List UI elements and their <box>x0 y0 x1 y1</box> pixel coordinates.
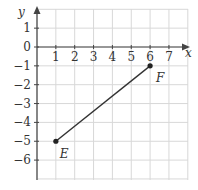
point-e <box>53 139 58 144</box>
x-tick-label: 4 <box>109 50 117 64</box>
x-tick-label: 2 <box>71 50 79 64</box>
coordinate-plane: 123456710−1−2−3−4−5−6 E F x y <box>0 0 198 190</box>
y-tick-label: −6 <box>13 153 31 167</box>
y-tick-label: 1 <box>23 21 31 35</box>
point-f <box>148 63 153 68</box>
point-f-label: F <box>155 71 165 85</box>
x-tick-label: 6 <box>146 50 154 64</box>
point-e-label: E <box>59 147 69 161</box>
y-tick-label: −3 <box>13 97 31 111</box>
x-tick-label: 1 <box>52 50 60 64</box>
y-tick-label: −1 <box>13 59 31 73</box>
y-tick-label: 0 <box>23 40 31 54</box>
y-tick-label: −2 <box>13 78 31 92</box>
y-tick-label: −5 <box>13 134 31 148</box>
y-axis-label: y <box>17 5 25 19</box>
y-tick-label: −4 <box>13 115 31 129</box>
x-tick-label: 7 <box>165 50 173 64</box>
axes <box>34 6 191 180</box>
x-tick-label: 5 <box>127 50 135 64</box>
y-axis-arrow-icon <box>34 6 41 14</box>
x-axis-label: x <box>185 46 192 60</box>
x-tick-label: 3 <box>90 50 98 64</box>
